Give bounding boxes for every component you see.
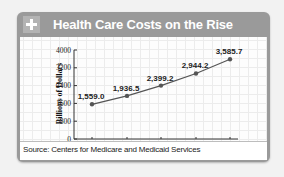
y-tick-label: 2400 (56, 81, 71, 90)
data-point (90, 102, 94, 106)
line-chart: 0800160024003200400020022005200820112014… (20, 37, 267, 141)
data-label: 3,585.7 (216, 47, 243, 56)
y-tick-label: 4000 (56, 46, 71, 55)
data-label: 1,936.5 (113, 84, 140, 93)
data-point (228, 57, 232, 61)
data-label: 2,399.2 (147, 74, 174, 83)
plus-icon (23, 16, 40, 33)
y-tick-label: 800 (60, 117, 72, 126)
data-point (194, 71, 198, 75)
chart-title: Health Care Costs on the Rise (53, 17, 233, 32)
data-label: 1,559.0 (78, 92, 105, 101)
y-tick-label: 3200 (56, 63, 71, 72)
data-point (159, 83, 163, 87)
y-tick-label: 1600 (56, 99, 71, 108)
data-point (125, 94, 129, 98)
source-text: Source: Centers for Medicare and Medicai… (23, 145, 200, 154)
source-footer: Source: Centers for Medicare and Medicai… (20, 141, 267, 160)
chart-body: Billions of Dollars 08001600240032004000… (20, 37, 267, 159)
card-header: Health Care Costs on the Rise (17, 12, 270, 37)
chart-card: Health Care Costs on the Rise Billions o… (17, 12, 270, 162)
data-label: 2,944.2 (182, 61, 209, 70)
